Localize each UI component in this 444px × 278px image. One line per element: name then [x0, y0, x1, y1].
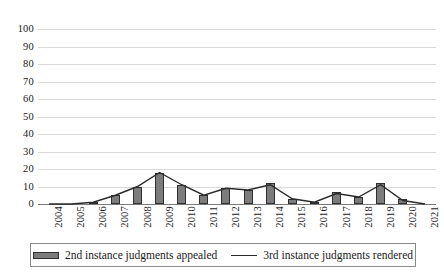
legend-item-line: 3rd instance judgments rendered	[231, 249, 413, 261]
bar-swatch-icon	[33, 252, 59, 259]
y-tick-label: 70	[0, 77, 34, 87]
x-tick-label: 2009	[164, 206, 175, 228]
x-tick-labels: 2004200520062007200820092010201120122013…	[38, 206, 436, 246]
x-tick-label: 2011	[208, 206, 219, 227]
x-tick-label: 2013	[252, 206, 263, 228]
plot-canvas	[38, 0, 436, 215]
y-tick-label: 30	[0, 147, 34, 157]
legend-label-bars: 2nd instance judgments appealed	[65, 249, 217, 261]
y-tick-label: 100	[0, 24, 34, 34]
chart-container: 1009080706050403020100 20042005200620072…	[0, 0, 444, 278]
x-tick-label: 2020	[407, 206, 418, 228]
x-tick-label: 2015	[296, 206, 307, 228]
y-tick-label: 90	[0, 42, 34, 52]
line-swatch-icon	[231, 255, 257, 256]
x-tick-label: 2007	[119, 206, 130, 228]
line-path	[49, 173, 425, 205]
y-tick-label: 20	[0, 164, 34, 174]
x-tick-label: 2019	[385, 206, 396, 228]
legend-item-bars: 2nd instance judgments appealed	[33, 249, 217, 261]
line-series	[38, 0, 436, 215]
y-tick-label: 80	[0, 59, 34, 69]
y-tick-label: 50	[0, 112, 34, 122]
x-tick-label: 2008	[142, 206, 153, 228]
x-tick-label: 2016	[318, 206, 329, 228]
y-tick-label: 40	[0, 129, 34, 139]
x-tick-label: 2014	[274, 206, 285, 228]
x-tick-label: 2006	[97, 206, 108, 228]
plot-area: 1009080706050403020100	[0, 0, 444, 215]
x-tick-label: 2005	[75, 206, 86, 228]
legend-label-line: 3rd instance judgments rendered	[263, 249, 413, 261]
x-tick-label: 2004	[53, 206, 64, 228]
y-tick-label: 10	[0, 182, 34, 192]
x-tick-label: 2018	[363, 206, 374, 228]
y-tick-label: 0	[0, 199, 34, 209]
x-tick-label: 2017	[341, 206, 352, 228]
y-tick-label: 60	[0, 94, 34, 104]
x-tick-label: 2021	[429, 206, 440, 228]
chart-legend: 2nd instance judgments appealed 3rd inst…	[30, 243, 416, 267]
x-tick-label: 2012	[230, 206, 241, 228]
x-tick-label: 2010	[186, 206, 197, 228]
